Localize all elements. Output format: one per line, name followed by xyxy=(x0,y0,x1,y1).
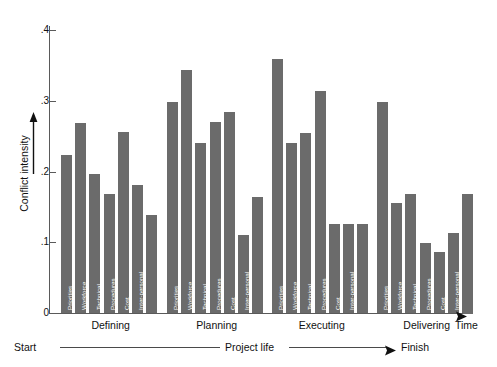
bar[interactable]: Priorities xyxy=(75,123,86,314)
timeline-middle-label: Project life xyxy=(225,341,274,353)
conflict-intensity-bar-chart: Conflict intensity 0.1.2.3.4 SchedulesPr… xyxy=(0,0,497,367)
bar[interactable]: Technical xyxy=(315,91,326,314)
bar[interactable]: Inter-personal xyxy=(462,194,473,314)
timeline-finish-label: Finish xyxy=(401,341,429,353)
bar[interactable]: Technical xyxy=(104,194,115,314)
bar[interactable]: Schedules xyxy=(61,155,72,314)
bar[interactable]: Inter-personal xyxy=(357,224,368,314)
bar-group: SchedulesPrioritiesWorkforceTechnicalPro… xyxy=(272,26,371,314)
y-axis-tick-label: .1 xyxy=(27,237,49,247)
group-label: Defining xyxy=(61,320,160,331)
timeline-start-label: Start xyxy=(14,341,36,353)
bar[interactable]: Schedules xyxy=(272,59,283,314)
project-life-timeline: Start Project life Finish xyxy=(0,341,497,359)
bar[interactable]: Priorities xyxy=(181,70,192,314)
bar-group: SchedulesPrioritiesWorkforceTechnicalPro… xyxy=(377,26,476,314)
timeline-arrow-icon xyxy=(384,342,396,353)
y-axis-tick: .3 xyxy=(0,101,49,102)
bar[interactable]: Cost xyxy=(343,224,354,314)
bar[interactable]: Inter-personal xyxy=(146,215,157,314)
x-axis-arrow-icon xyxy=(455,308,467,319)
group-label: Delivering xyxy=(377,320,476,331)
y-axis-arrow-icon xyxy=(29,112,38,174)
timeline-rule-left xyxy=(60,347,220,348)
x-axis-line xyxy=(49,313,463,314)
bar-group: SchedulesPrioritiesWorkforceTechnicalPro… xyxy=(61,26,160,314)
bar[interactable]: Workforce xyxy=(89,174,100,314)
bar[interactable]: Inter-personal xyxy=(252,197,263,314)
bar[interactable]: Procedures xyxy=(224,112,235,314)
bar[interactable]: Schedules xyxy=(377,102,388,314)
group-label: Executing xyxy=(272,320,371,331)
bar[interactable]: Workforce xyxy=(405,194,416,314)
y-axis-tick: 0 xyxy=(0,313,49,314)
y-axis-tick-label: .3 xyxy=(27,96,49,106)
bar[interactable]: Cost xyxy=(132,185,143,314)
y-axis-tick-label: .4 xyxy=(27,25,49,35)
y-axis-tick-label: 0 xyxy=(27,308,49,318)
bar[interactable]: Workforce xyxy=(195,143,206,314)
group-label: Planning xyxy=(167,320,266,331)
bar[interactable]: Technical xyxy=(420,243,431,314)
bar-group: SchedulesPrioritiesWorkforceTechnicalPro… xyxy=(167,26,266,314)
plot-area: SchedulesPrioritiesWorkforceTechnicalPro… xyxy=(50,26,448,314)
y-axis-tick: .4 xyxy=(0,30,49,31)
bar[interactable]: Procedures xyxy=(434,252,445,314)
bar[interactable]: Schedules xyxy=(167,102,178,314)
bar[interactable]: Technical xyxy=(210,122,221,314)
bar[interactable]: Procedures xyxy=(118,132,129,314)
bar[interactable]: Cost xyxy=(448,233,459,314)
bar[interactable]: Procedures xyxy=(329,224,340,314)
timeline-rule-right xyxy=(289,347,386,348)
y-axis-tick: .1 xyxy=(0,242,49,243)
y-axis-tick: .2 xyxy=(0,172,49,173)
y-axis-tick-label: .2 xyxy=(27,167,49,177)
bar[interactable]: Workforce xyxy=(300,133,311,314)
bar[interactable]: Cost xyxy=(238,235,249,314)
bar[interactable]: Priorities xyxy=(286,143,297,314)
bar-label: Schedules xyxy=(50,299,61,310)
bar[interactable]: Priorities xyxy=(391,203,402,314)
